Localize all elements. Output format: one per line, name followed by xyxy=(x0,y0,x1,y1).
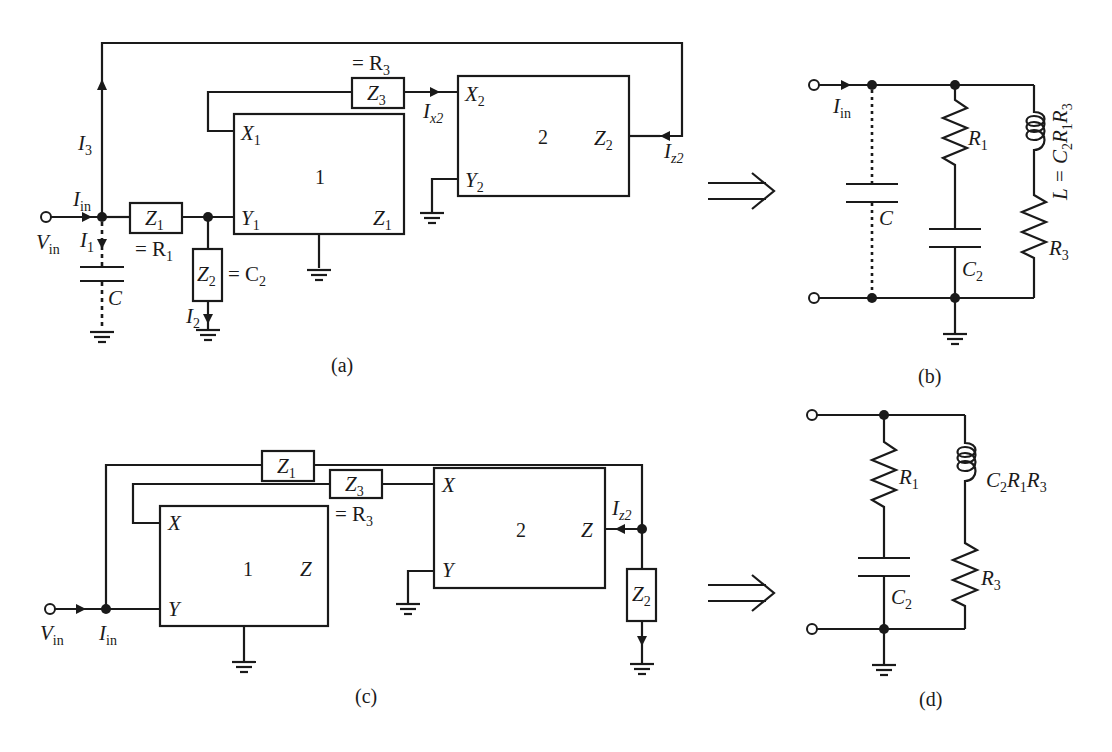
panel-c: Vin Iin Z1 Z3 = R3 Z2 Iz2 X Y Z 1 X Y Z … xyxy=(40,451,656,708)
label-iin: Iin xyxy=(98,621,117,648)
resistor-r3 xyxy=(1022,185,1046,298)
ground-icon xyxy=(232,662,256,672)
current-arrow-iin xyxy=(76,604,86,614)
label-vin: Vin xyxy=(40,621,64,648)
ground-icon xyxy=(630,664,654,674)
block-2-number: 2 xyxy=(516,519,526,541)
ground-icon xyxy=(872,665,896,675)
input-terminal xyxy=(41,212,51,222)
wire-y2 xyxy=(432,179,458,212)
label-iin: Iin xyxy=(72,187,91,214)
block-1-number: 1 xyxy=(315,166,325,188)
ground-icon xyxy=(196,330,220,340)
caption-a: (a) xyxy=(331,354,353,377)
input-terminal xyxy=(807,624,817,634)
current-arrow-ix2 xyxy=(430,87,440,97)
input-terminal xyxy=(807,410,817,420)
caption-d: (d) xyxy=(919,688,942,711)
inductor xyxy=(1027,85,1045,185)
junction-node xyxy=(867,80,877,90)
resistor-r1 xyxy=(943,85,967,228)
label-x-block1: X xyxy=(167,511,182,535)
current-arrow-i1 xyxy=(97,239,107,249)
circuit-figure: Vin Iin I1 I3 C Z1 = R1 Z2 = C2 I2 = R3 … xyxy=(0,0,1112,752)
ground-icon xyxy=(943,334,967,344)
label-i1: I1 xyxy=(79,228,94,255)
ground-icon xyxy=(396,604,420,614)
transform-arrow-ab xyxy=(708,173,774,209)
resistor-r1 xyxy=(872,415,896,557)
ground-icon xyxy=(90,332,114,342)
label-ix2: Ix2 xyxy=(422,99,443,126)
label-z3-value: = R3 xyxy=(335,502,373,529)
label-inductor: C2R1R3 xyxy=(986,468,1047,495)
current-arrow-iin xyxy=(841,80,851,90)
label-i2: I2 xyxy=(185,304,200,331)
current-arrow-i2 xyxy=(203,314,213,324)
caption-b: (b) xyxy=(918,365,941,388)
label-c-parasitic: C xyxy=(108,286,123,310)
label-z2-value: = C2 xyxy=(228,262,266,289)
label-x-block2: X xyxy=(441,473,456,497)
inductor xyxy=(958,415,976,517)
ground-icon xyxy=(420,213,444,223)
panel-d: R1 C2 C2R1R3 R3 (d) xyxy=(807,410,1047,711)
label-iz2: Iz2 xyxy=(663,139,683,166)
label-c2: C2 xyxy=(891,585,912,612)
label-r3: R3 xyxy=(980,566,1001,593)
label-z-block1: Z xyxy=(300,557,312,581)
wire-y xyxy=(408,571,434,603)
resistor-r3 xyxy=(953,517,977,629)
ground-icon xyxy=(307,270,331,280)
input-terminal xyxy=(809,80,819,90)
label-r1: R1 xyxy=(898,465,919,492)
input-terminal xyxy=(809,293,819,303)
current-arrow-z2 xyxy=(637,636,647,646)
block-2-number: 2 xyxy=(538,126,548,148)
label-vin: Vin xyxy=(36,230,60,257)
label-c-parasitic: C xyxy=(879,206,894,230)
label-r3: R3 xyxy=(1048,236,1069,263)
panel-a: Vin Iin I1 I3 C Z1 = R1 Z2 = C2 I2 = R3 … xyxy=(36,43,683,377)
transform-arrow-cd xyxy=(708,575,774,611)
panel-b: Iin C R1 C2 R3 L = C2R1R3 (b) xyxy=(809,80,1075,388)
label-inductor: L = C2R1R3 xyxy=(1048,103,1075,201)
label-z1-value: = R1 xyxy=(135,237,173,264)
label-r1: R1 xyxy=(967,126,988,153)
label-iz2: Iz2 xyxy=(611,496,631,523)
current-arrow-i3 xyxy=(97,79,107,90)
label-iin: Iin xyxy=(832,94,851,121)
label-z3-value: = R3 xyxy=(352,51,390,78)
input-terminal xyxy=(45,604,55,614)
junction-node xyxy=(867,293,877,303)
caption-c: (c) xyxy=(355,685,377,708)
label-c2: C2 xyxy=(962,257,983,284)
label-z-block2: Z xyxy=(581,518,593,542)
current-arrow-iz2 xyxy=(615,524,625,534)
label-i3: I3 xyxy=(77,131,92,158)
block-1-number: 1 xyxy=(243,558,253,580)
